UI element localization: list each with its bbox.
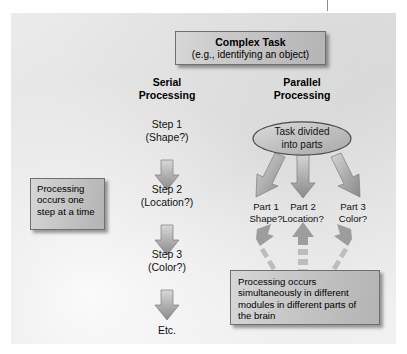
- parallel-heading-line1: Parallel: [252, 76, 352, 89]
- parallel-heading-line2: Processing: [252, 89, 352, 102]
- serial-heading-line1: Serial: [117, 76, 217, 89]
- diverging-arrow-icon: [256, 153, 285, 197]
- parallel-note-text: Processing occurs simultaneously in diff…: [231, 271, 379, 326]
- down-arrow-icon: [155, 290, 179, 320]
- parallel-processing-heading: Parallel Processing: [252, 76, 352, 101]
- serial-step-1-line1: Step 1: [117, 118, 217, 131]
- diverging-arrow-icon: [331, 153, 360, 197]
- serial-step-2: Step 2 (Location?): [117, 183, 217, 208]
- serial-processing-heading: Serial Processing: [117, 76, 217, 101]
- serial-step-3-line1: Step 3: [117, 248, 217, 261]
- part-3-line2: Color?: [314, 213, 392, 225]
- dashed-up-arrow-icon: [292, 222, 314, 275]
- complex-task-box: Complex Task (e.g., identifying an objec…: [175, 31, 326, 65]
- diagram-panel: Complex Task (e.g., identifying an objec…: [11, 13, 396, 344]
- ellipse-text: Task divided into parts: [252, 126, 352, 151]
- serial-step-2-line1: Step 2: [117, 183, 217, 196]
- serial-note-text: Processing occurs one step at a time: [31, 179, 104, 221]
- part-3-line1: Part 3: [314, 201, 392, 213]
- serial-step-1: Step 1 (Shape?): [117, 118, 217, 143]
- serial-step-3-line2: (Color?): [117, 261, 217, 274]
- serial-heading-line2: Processing: [117, 89, 217, 102]
- ellipse-line2: into parts: [252, 139, 352, 152]
- task-divided-ellipse: Task divided into parts: [252, 121, 352, 156]
- complex-task-subtitle: (e.g., identifying an object): [182, 49, 319, 61]
- parallel-part-3: Part 3 Color?: [314, 201, 392, 224]
- complex-task-title: Complex Task: [182, 36, 319, 48]
- serial-step-1-line2: (Shape?): [117, 131, 217, 144]
- serial-note-box: Processing occurs one step at a time: [30, 178, 105, 230]
- parallel-note-box: Processing occurs simultaneously in diff…: [230, 270, 380, 325]
- top-tick-mark: [327, 0, 328, 11]
- diverging-arrow-icon: [291, 153, 315, 198]
- serial-step-3: Step 3 (Color?): [117, 248, 217, 273]
- serial-step-2-line2: (Location?): [117, 196, 217, 209]
- figure-root: Complex Task (e.g., identifying an objec…: [0, 0, 407, 354]
- serial-terminator: Etc.: [117, 324, 217, 337]
- ellipse-line1: Task divided: [252, 126, 352, 139]
